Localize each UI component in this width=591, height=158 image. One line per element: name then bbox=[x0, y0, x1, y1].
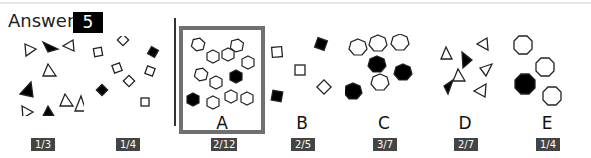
vertical-divider bbox=[174, 18, 176, 126]
question-2-ratio-badge: 1/4 bbox=[116, 138, 140, 151]
square-shapes-icon bbox=[92, 36, 168, 116]
question-panel-triangles bbox=[8, 36, 84, 116]
option-e-ratio-badge: 1/4 bbox=[536, 138, 560, 151]
option-a-panel[interactable] bbox=[183, 30, 261, 114]
question-panel-squares bbox=[92, 36, 168, 116]
option-d-panel[interactable] bbox=[432, 34, 502, 114]
option-d-ratio-badge: 2/7 bbox=[454, 138, 478, 151]
heptagon-shapes-icon bbox=[345, 34, 425, 114]
option-b-letter: B bbox=[287, 113, 317, 133]
square-shapes-icon bbox=[268, 34, 332, 114]
answer-label: Answer bbox=[8, 10, 74, 31]
option-a-ratio-badge: 2/12 bbox=[211, 138, 237, 151]
top-rule bbox=[0, 2, 591, 4]
option-b-panel[interactable] bbox=[268, 34, 332, 114]
hexagon-shapes-icon bbox=[183, 30, 261, 114]
option-d-letter: D bbox=[450, 113, 480, 133]
triangle-shapes-icon bbox=[432, 34, 502, 114]
triangle-shapes-icon bbox=[8, 36, 84, 116]
answer-value-box: 5 bbox=[73, 12, 103, 33]
option-a-letter: A bbox=[207, 113, 237, 133]
option-e-panel[interactable] bbox=[510, 34, 580, 114]
option-c-panel[interactable] bbox=[345, 34, 425, 114]
question-1-ratio-badge: 1/3 bbox=[31, 138, 55, 151]
option-c-ratio-badge: 3/7 bbox=[373, 138, 397, 151]
option-c-letter: C bbox=[369, 113, 399, 133]
option-b-ratio-badge: 2/5 bbox=[291, 138, 315, 151]
octagon-shapes-icon bbox=[510, 34, 580, 114]
option-e-letter: E bbox=[532, 113, 562, 133]
